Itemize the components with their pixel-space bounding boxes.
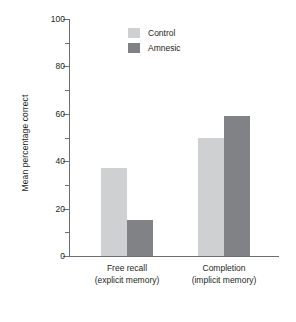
bar-chart-figure: Mean percentage correct 020406080100 Fre…	[0, 0, 296, 322]
y-tick-minor	[65, 90, 70, 91]
y-tick-label: 40	[56, 156, 65, 166]
x-axis-group-label-line2: (implicit memory)	[154, 275, 294, 287]
y-tick-label: 20	[56, 204, 65, 214]
y-tick-label: 100	[51, 14, 65, 24]
x-axis-line	[69, 256, 279, 257]
bar-control-group-0	[101, 168, 127, 256]
x-axis-group-label: Completion(implicit memory)	[154, 263, 294, 286]
bar-amnesic-group-1	[224, 116, 250, 256]
legend-item-amnesic: Amnesic	[128, 40, 181, 55]
legend-label-amnesic: Amnesic	[148, 43, 181, 53]
y-tick-minor	[65, 232, 70, 233]
bar-amnesic-group-0	[127, 220, 153, 256]
y-tick-label: 60	[56, 109, 65, 119]
legend-item-control: Control	[128, 25, 181, 40]
y-tick-minor	[65, 138, 70, 139]
legend-swatch-amnesic	[128, 43, 140, 53]
chart-legend: ControlAmnesic	[128, 25, 181, 55]
y-tick-label: 80	[56, 61, 65, 71]
legend-swatch-control	[128, 28, 140, 38]
y-axis-title: Mean percentage correct	[20, 58, 30, 228]
y-tick-minor	[65, 43, 70, 44]
y-tick-label: 0	[60, 251, 65, 261]
legend-label-control: Control	[148, 28, 175, 38]
x-axis-group-label-line1: Completion	[154, 263, 294, 275]
bar-control-group-1	[198, 138, 224, 257]
y-tick-minor	[65, 185, 70, 186]
